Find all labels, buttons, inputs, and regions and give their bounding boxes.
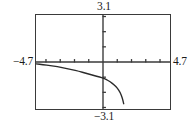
- function-curve: [36, 64, 124, 104]
- x-max-label: 4.7: [173, 56, 187, 68]
- y-max-label: 3.1: [97, 1, 111, 13]
- x-min-label: −4.7: [13, 56, 33, 68]
- axes-group: [36, 15, 170, 109]
- plot-svg: [36, 15, 170, 109]
- graphing-calculator-screen: 3.1 −3.1 −4.7 4.7: [0, 0, 193, 124]
- plot-area: [36, 15, 170, 109]
- y-min-label: −3.1: [94, 111, 114, 123]
- function-curve-group: [36, 64, 124, 104]
- graph-viewport-frame: [35, 14, 171, 110]
